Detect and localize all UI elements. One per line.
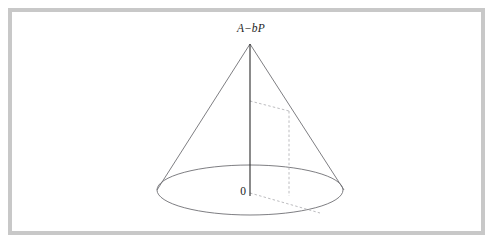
- cone-figure: A−bP 0: [0, 0, 501, 252]
- apex-height-label: A−bP: [225, 23, 277, 35]
- base-radius-dashed-line: [250, 193, 320, 213]
- inner-top-dashed-line: [250, 101, 289, 111]
- cone-drawing-canvas: [0, 0, 501, 252]
- apex-label-operator: −: [244, 22, 252, 34]
- origin-label: 0: [234, 186, 246, 198]
- apex-label-trail: bP: [252, 22, 265, 34]
